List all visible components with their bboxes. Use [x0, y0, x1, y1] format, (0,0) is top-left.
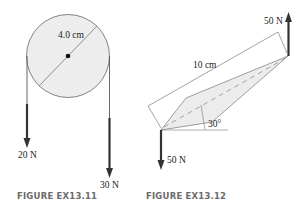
arrow-down-icon: [158, 160, 165, 170]
axle-dot: [66, 54, 71, 59]
tip-force-label: 50 N: [264, 16, 283, 26]
dimension-tick-right: [278, 32, 287, 53]
arrow-down-icon: [106, 168, 113, 178]
figure-ex13-12: 30° 10 cm 50 N 50 N FIGURE EX13.12: [146, 12, 292, 201]
figure-caption: FIGURE EX13.11: [17, 191, 97, 201]
arrow-up-icon: [285, 12, 292, 22]
dimension-tick-left: [148, 106, 161, 128]
pivot-force-label: 50 N: [167, 155, 186, 165]
length-label: 10 cm: [193, 60, 217, 70]
diameter-label: 4.0 cm: [58, 30, 84, 40]
figure-caption: FIGURE EX13.12: [146, 191, 226, 201]
figure-ex13-11: 4.0 cm 20 N 30 N FIGURE EX13.11: [17, 15, 119, 202]
arrow-down-icon: [24, 138, 31, 148]
right-force-label: 30 N: [100, 180, 119, 190]
angle-label: 30°: [208, 119, 222, 129]
left-force-label: 20 N: [18, 150, 37, 160]
bar-body: [161, 56, 288, 130]
figures-canvas: 4.0 cm 20 N 30 N FIGURE EX13.11 30° 10 c…: [0, 0, 307, 203]
